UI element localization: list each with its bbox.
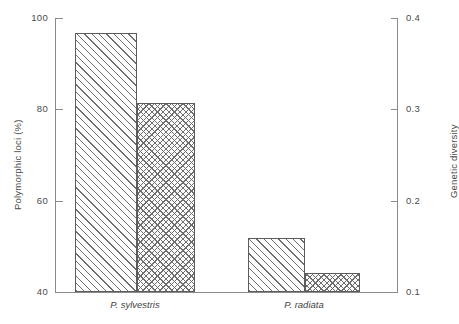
x-axis-line: [55, 292, 398, 293]
category-label-sylvestris: P. sylvestris: [75, 299, 195, 310]
right-axis-ticklabel-0-1: 0.1: [406, 286, 440, 297]
right-axis-ticklabel-0-2: 0.2: [406, 195, 440, 206]
left-axis-tick-60: [56, 201, 63, 202]
bar-sylvestris-polymorphic-loci: [75, 33, 137, 292]
right-axis-tick-0-2: [391, 201, 398, 202]
left-axis-line: [55, 18, 56, 293]
right-axis-tick-0-3: [391, 109, 398, 110]
right-axis-ticklabel-0-4: 0.4: [406, 12, 440, 23]
left-axis-tick-80: [56, 109, 63, 110]
left-axis-ticklabel-80: 80: [16, 103, 48, 114]
bar-radiata-polymorphic-loci: [248, 238, 305, 292]
bar-sylvestris-genetic-diversity: [137, 103, 195, 292]
category-label-radiata: P. radiata: [248, 299, 360, 310]
left-axis-ticklabel-40: 40: [16, 286, 48, 297]
right-axis-tick-0-1: [391, 292, 398, 293]
left-axis-ticklabel-100: 100: [16, 12, 48, 23]
right-axis-title: Genetic diversity: [448, 124, 459, 198]
bar-radiata-genetic-diversity: [305, 273, 360, 292]
right-axis-ticklabel-0-3: 0.3: [406, 103, 440, 114]
left-axis-tick-100: [56, 18, 63, 19]
right-axis-tick-0-4: [391, 18, 398, 19]
left-axis-title: Polymorphic loci (%): [12, 119, 23, 210]
right-axis-line: [397, 18, 398, 293]
